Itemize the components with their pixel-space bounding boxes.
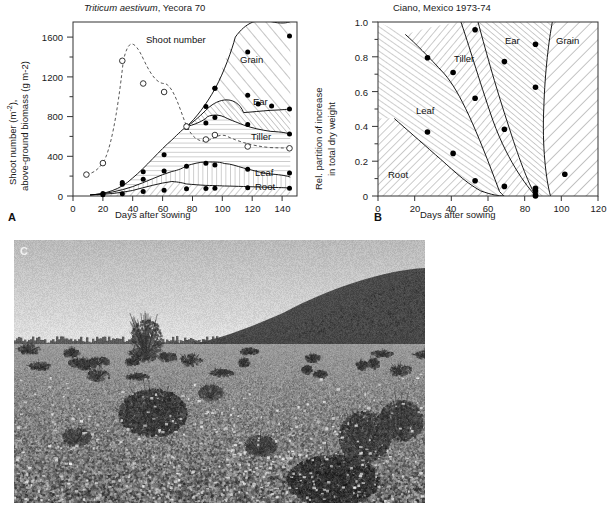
panel-b-ytick-0-6: 0.6 bbox=[333, 87, 368, 98]
annotation-b-leaf: Leaf bbox=[416, 105, 435, 116]
panel-c-letter: C bbox=[20, 246, 28, 257]
panel-b-ytick-0-8: 0.8 bbox=[333, 52, 368, 63]
panel-b-xtick-80: 80 bbox=[515, 203, 535, 214]
panel-b-xtick-100: 100 bbox=[549, 203, 574, 214]
panel-b-xtick-60: 60 bbox=[478, 203, 498, 214]
panel-b-xtick-120: 120 bbox=[586, 203, 609, 214]
annotation-b-tiller: Tiller bbox=[454, 53, 474, 64]
panel-b-ytick-1-0: 1.0 bbox=[333, 17, 368, 28]
panel-b-yticks bbox=[372, 22, 378, 196]
annotation-b-root: Root bbox=[388, 169, 408, 180]
panel-b-xticks bbox=[378, 196, 598, 201]
panel-b-ytick-0-4: 0.4 bbox=[333, 121, 368, 132]
panel-b-chart: Root Leaf Tiller Ear Grain bbox=[0, 0, 609, 230]
panel-c-photograph bbox=[14, 240, 425, 503]
figure-root: Triticum aestivum, Yecora 70 Shoot numbe… bbox=[0, 0, 609, 521]
panel-b-xtick-40: 40 bbox=[441, 203, 461, 214]
panel-b-ytick-0-2: 0.2 bbox=[333, 156, 368, 167]
panel-b-bands bbox=[378, 22, 598, 196]
panel-b-ytick-0: 0 bbox=[338, 191, 368, 202]
panel-b-xtick-20: 20 bbox=[405, 203, 425, 214]
panel-b-xtick-0: 0 bbox=[368, 203, 388, 214]
figure-caption bbox=[14, 508, 594, 519]
annotation-b-ear: Ear bbox=[505, 35, 520, 46]
desert-landscape-image bbox=[14, 240, 425, 503]
annotation-b-grain: Grain bbox=[556, 35, 579, 46]
band-b-grain bbox=[543, 22, 598, 196]
